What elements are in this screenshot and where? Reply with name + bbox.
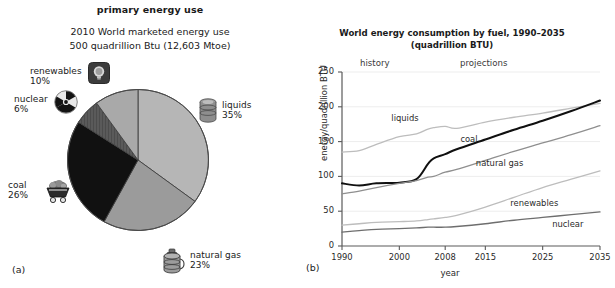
pie-label-liquids: liquids 35% xyxy=(222,100,251,120)
panel-b-line-chart: World energy consumption by fuel, 1990–2… xyxy=(300,0,608,288)
pie-label-coal-percent: 26% xyxy=(8,190,28,200)
pie-chart-subtitle-2: 500 quadrillion Btu (12,603 Mtoe) xyxy=(70,40,231,51)
pie-label-liquids-name: liquids xyxy=(222,100,251,110)
pie-label-nuclear: nuclear 6% xyxy=(14,94,48,114)
radiation-icon xyxy=(54,90,78,118)
panel-a-caption: (a) xyxy=(12,264,25,275)
y-tick-label: 0 xyxy=(308,240,334,250)
pie-graphic xyxy=(66,88,210,232)
x-tick-label: 1990 xyxy=(325,252,359,262)
panel-a-pie-chart: primary energy use 2010 World marketed e… xyxy=(0,0,300,288)
pie-label-coal: coal 26% xyxy=(8,180,28,200)
pie-label-liquids-percent: 35% xyxy=(222,110,251,120)
series-line-renewables xyxy=(342,171,600,225)
pie-svg xyxy=(66,88,210,232)
series-label-natural-gas: natural gas xyxy=(476,158,523,168)
pie-chart-subtitle-1: 2010 World marketed energy use xyxy=(71,26,230,37)
series-label-coal: coal xyxy=(460,134,477,144)
series-label-renewables: renewables xyxy=(510,198,558,208)
series-label-nuclear: nuclear xyxy=(552,219,583,229)
x-tick-label: 2008 xyxy=(428,252,462,262)
x-tick-label: 2000 xyxy=(382,252,416,262)
gas-canister-icon xyxy=(160,248,186,280)
x-axis-label: year xyxy=(440,268,459,278)
series-label-liquids: liquids xyxy=(391,113,418,123)
pie-chart-title: primary energy use xyxy=(97,4,204,15)
pie-label-nuclear-percent: 6% xyxy=(14,104,48,114)
pie-label-natural-gas-percent: 23% xyxy=(190,260,241,270)
panel-b-caption: (b) xyxy=(306,262,319,273)
y-tick-marks xyxy=(338,72,342,246)
pie-label-nuclear-name: nuclear xyxy=(14,94,48,104)
x-tick-label: 2035 xyxy=(583,252,615,262)
series-paths xyxy=(342,101,600,233)
coal-cart-icon xyxy=(44,178,72,208)
pie-label-renewables: renewables 10% xyxy=(30,66,82,86)
x-tick-marks xyxy=(342,246,600,250)
y-tick-label: 50 xyxy=(308,205,334,215)
line-chart-svg xyxy=(300,0,608,288)
oil-barrel-icon xyxy=(198,98,218,128)
lightbulb-icon xyxy=(88,62,110,88)
pie-label-renewables-percent: 10% xyxy=(30,76,82,86)
x-tick-label: 2025 xyxy=(526,252,560,262)
pie-label-coal-name: coal xyxy=(8,180,28,190)
pie-label-natural-gas-name: natural gas xyxy=(190,250,241,260)
pie-label-renewables-name: renewables xyxy=(30,66,82,76)
x-tick-label: 2015 xyxy=(468,252,502,262)
pie-label-natural-gas: natural gas 23% xyxy=(190,250,241,270)
y-axis-label: energy/quadrillion BTU xyxy=(319,53,329,173)
